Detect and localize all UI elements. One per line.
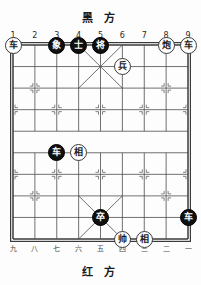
red-cannon-file8[interactable]: 炮 (158, 37, 175, 54)
bottom-coordinate-row: 九八七六五四三二一 (0, 243, 201, 255)
coord-bottom-8: 二 (159, 243, 173, 255)
coord-bottom-1: 九 (6, 243, 20, 255)
coord-bottom-5: 五 (94, 243, 108, 255)
black-chariot-file9[interactable]: 车 (180, 209, 197, 226)
coord-bottom-4: 六 (72, 243, 86, 255)
black-general-file5[interactable]: 将 (92, 37, 109, 54)
red-elephant-file7[interactable]: 相 (136, 231, 153, 248)
black-elephant-file3[interactable]: 象 (48, 37, 65, 54)
red-chariot-file9[interactable]: 车 (180, 37, 197, 54)
black-side-title: 黑 方 (0, 9, 201, 25)
coord-bottom-3: 七 (50, 243, 64, 255)
red-pawn-file6[interactable]: 兵 (114, 58, 131, 75)
red-chariot-file1[interactable]: 车 (5, 37, 22, 54)
black-pawn-file5[interactable]: 卒 (92, 209, 109, 226)
coord-bottom-2: 八 (28, 243, 42, 255)
coord-top-7: 7 (137, 30, 151, 42)
coord-bottom-9: 一 (181, 243, 195, 255)
black-advisor-file4[interactable]: 士 (70, 37, 87, 54)
xiangqi-board: 车象士将炮车兵车相卒车帅相 (13, 45, 188, 239)
coord-top-2: 2 (28, 30, 42, 42)
xiangqi-diagram: 黑 方 123456789 车象士将炮车兵车相卒车帅相 九八七六五四三二一 红 … (0, 0, 201, 285)
red-side-title: 红 方 (0, 263, 201, 279)
red-general-file6[interactable]: 帅 (114, 231, 131, 248)
coord-top-6: 6 (115, 30, 129, 42)
